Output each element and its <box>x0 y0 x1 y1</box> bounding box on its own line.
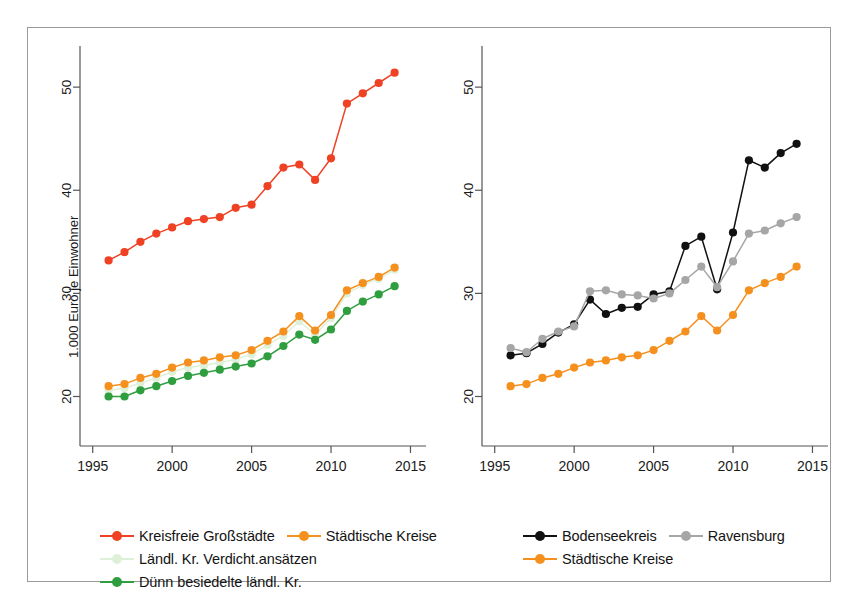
legend-marker-icon <box>287 530 321 542</box>
legend-marker-icon <box>100 576 134 588</box>
legend-staedtische-kreise-right[interactable]: Städtische Kreise <box>523 551 673 567</box>
line-chart-left: 2030405019952000200520102015 <box>28 28 430 498</box>
x-tick-label: 2010 <box>315 458 346 474</box>
x-tick-label: 1995 <box>77 458 108 474</box>
legend-label: Dünn besiedelte ländl. Kr. <box>139 574 302 590</box>
legend-row: Dünn besiedelte ländl. Kr. <box>100 570 437 593</box>
legend-row: Kreisfreie GroßstädteStädtische Kreise <box>100 524 437 547</box>
x-tick-label: 2010 <box>717 458 748 474</box>
line-chart-right: 2030405019952000200520102015 <box>430 28 832 498</box>
series-st-dtische-kreise <box>105 264 399 391</box>
legend-staedtische-kreise[interactable]: Städtische Kreise <box>287 528 437 544</box>
legend-laendl-kr-verdichtansaetzen[interactable]: Ländl. Kr. Verdicht.ansätzen <box>100 551 317 567</box>
legend-marker-icon <box>523 553 557 565</box>
legend-kreisfreie-grossstaedte[interactable]: Kreisfreie Großstädte <box>100 528 275 544</box>
chart-panel-right: 2030405019952000200520102015 1.000 Euro … <box>430 28 832 498</box>
figure-frame: 2030405019952000200520102015 1.000 Euro … <box>27 27 831 582</box>
series-bodenseekreis <box>507 140 801 360</box>
series-kreisfreie-gro-st-dte <box>105 69 399 265</box>
legend-marker-icon <box>100 530 134 542</box>
legend-row: BodenseekreisRavensburg <box>523 524 785 547</box>
legend-right: BodenseekreisRavensburgStädtische Kreise <box>523 524 785 570</box>
legend-label: Städtische Kreise <box>562 551 673 567</box>
y-tick-label: 50 <box>59 80 74 95</box>
y-tick-label: 40 <box>59 183 74 198</box>
legend-marker-icon <box>523 530 557 542</box>
legend-left: Kreisfreie GroßstädteStädtische KreiseLä… <box>100 524 437 593</box>
legend-row: Städtische Kreise <box>523 547 785 570</box>
legend-label: Ravensburg <box>708 528 785 544</box>
series-ravensburg <box>507 213 801 356</box>
series-st-dtische-kreise <box>507 263 801 391</box>
x-tick-label: 2000 <box>157 458 188 474</box>
chart-panel-left: 2030405019952000200520102015 1.000 Euro … <box>28 28 430 498</box>
legend-ravensburg[interactable]: Ravensburg <box>669 528 785 544</box>
x-tick-label: 2005 <box>236 458 267 474</box>
figure-title-strip <box>0 0 860 12</box>
legend-label: Städtische Kreise <box>326 528 437 544</box>
x-tick-label: 2015 <box>797 458 828 474</box>
y-tick-label: 40 <box>461 183 476 198</box>
x-tick-label: 2000 <box>559 458 590 474</box>
y-tick-label: 20 <box>59 389 74 404</box>
legend-label: Ländl. Kr. Verdicht.ansätzen <box>139 551 317 567</box>
legend-duenn-besiedelte-laendl-kr[interactable]: Dünn besiedelte ländl. Kr. <box>100 574 302 590</box>
legend-label: Kreisfreie Großstädte <box>139 528 275 544</box>
legend-marker-icon <box>100 553 134 565</box>
legend-label: Bodenseekreis <box>562 528 657 544</box>
legend-marker-icon <box>669 530 703 542</box>
legend-row: Ländl. Kr. Verdicht.ansätzen <box>100 547 437 570</box>
series-d-nn-besiedelte-l-ndl-kr <box>105 282 399 401</box>
y-axis-label-left: 1.000 Euro je Einwohner <box>66 216 81 358</box>
x-tick-label: 2005 <box>638 458 669 474</box>
y-tick-label: 50 <box>461 80 476 95</box>
x-tick-label: 1995 <box>479 458 510 474</box>
y-tick-label: 20 <box>461 389 476 404</box>
y-tick-label: 30 <box>461 286 476 301</box>
legend-bodenseekreis[interactable]: Bodenseekreis <box>523 528 657 544</box>
x-tick-label: 2015 <box>395 458 426 474</box>
